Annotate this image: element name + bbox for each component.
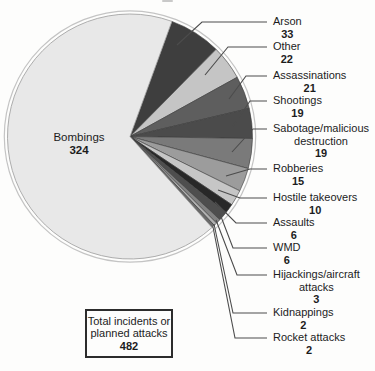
slice-label-robberies: Robberies15 (273, 162, 323, 187)
cropped-text-artifact (162, 0, 173, 2)
slice-name: Other (273, 40, 301, 53)
slice-name: Assaults (273, 216, 315, 229)
slice-name: Arson (273, 15, 302, 28)
slice-value: 6 (273, 254, 301, 267)
slice-label-assassinations: Assassinations21 (273, 69, 346, 94)
slice-label-hostile-takeovers: Hostile takeovers10 (273, 191, 357, 216)
pie-chart-figure: Arson33Other22Assassinations21Shootings1… (0, 0, 375, 371)
slice-value: 21 (273, 82, 346, 95)
slice-value: 6 (273, 229, 315, 242)
slice-name: Assassinations (273, 69, 346, 82)
slice-label-shootings: Shootings19 (273, 94, 322, 119)
slice-label-hijackings-aircraft: Hijackings/aircraft attacks3 (273, 268, 360, 306)
total-value: 482 (87, 340, 171, 353)
slice-value: 15 (273, 175, 323, 188)
slice-label-sabotage-malicious: Sabotage/malicious destruction19 (273, 122, 369, 160)
slice-name: Bombings (43, 131, 115, 144)
slice-label-wmd: WMD6 (273, 241, 301, 266)
slice-label-bombings: Bombings 324 (43, 131, 115, 157)
slice-name: WMD (273, 241, 301, 254)
slice-name: Sabotage/malicious destruction (273, 122, 369, 147)
slice-name: Robberies (273, 162, 323, 175)
slice-name: Kidnappings (273, 306, 334, 319)
slice-value: 2 (273, 344, 345, 357)
total-label: Total incidents or planned attacks (87, 315, 171, 340)
slice-value: 22 (273, 53, 301, 66)
slice-value: 2 (273, 319, 334, 332)
total-incidents-box: Total incidents or planned attacks 482 (85, 309, 173, 358)
slice-label-rocket-attacks: Rocket attacks2 (273, 331, 345, 356)
slice-name: Hijackings/aircraft attacks (273, 268, 360, 293)
slice-name: Hostile takeovers (273, 191, 357, 204)
slice-value: 19 (273, 147, 369, 160)
slice-label-assaults: Assaults6 (273, 216, 315, 241)
leader-line-rocket-attacks (213, 227, 267, 338)
leader-line-wmd (220, 214, 267, 248)
slice-value: 324 (43, 144, 115, 157)
slice-value: 3 (273, 293, 360, 306)
slice-value: 10 (273, 204, 357, 217)
slice-label-arson: Arson33 (273, 15, 302, 40)
slice-name: Shootings (273, 94, 322, 107)
slice-label-other: Other22 (273, 40, 301, 65)
slice-label-kidnappings: Kidnappings2 (273, 306, 334, 331)
slice-name: Rocket attacks (273, 331, 345, 344)
leader-line-kidnappings (214, 224, 267, 313)
slice-value: 19 (273, 107, 322, 120)
slice-value: 33 (273, 28, 302, 41)
